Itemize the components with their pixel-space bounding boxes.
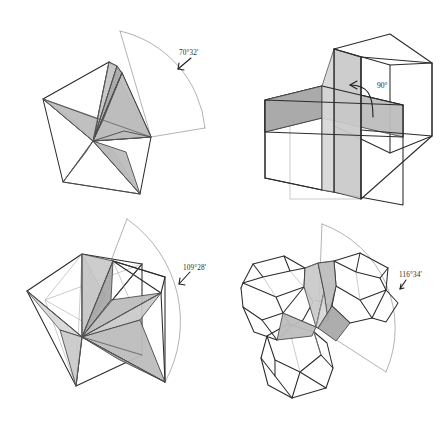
- panel-octahedra: 109°28': [27, 219, 206, 386]
- angle-annotation-dodecahedra: [400, 280, 406, 289]
- angle-annotation-octahedra: [179, 272, 190, 285]
- panel-cubes: 90°: [265, 34, 432, 205]
- angle-label-octahedra: 109°28': [183, 264, 206, 272]
- panel-dodecahedra: 116°34': [241, 224, 422, 398]
- polyhedra-dihedral-angle-figure: 70°32': [0, 0, 446, 421]
- angle-label-tetrahedra: 70°32': [179, 49, 198, 57]
- angle-label-cubes: 90°: [377, 81, 388, 90]
- panel-tetrahedra: 70°32': [43, 31, 205, 194]
- figure-canvas: 70°32': [0, 0, 446, 421]
- angle-label-dodecahedra: 116°34': [399, 271, 422, 279]
- cube-vertical-slab: [322, 49, 361, 199]
- dodecahedra-shaded-faces: [277, 261, 350, 341]
